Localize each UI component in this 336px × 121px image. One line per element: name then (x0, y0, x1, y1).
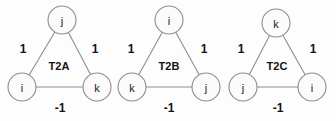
node-label-t2b-right: j (204, 82, 207, 94)
edge-weight-t2a-top-right: 1 (92, 42, 99, 56)
node-label-t2a-right: k (94, 82, 100, 94)
edge-weight-t2c-top-left: 1 (238, 42, 245, 56)
node-label-t2c-left: j (241, 82, 244, 94)
edge-t2a-top-right (68, 32, 90, 74)
edge-weight-t2c-left-right: -1 (273, 101, 284, 115)
node-label-t2a-left: i (21, 82, 23, 94)
edge-weight-t2b-top-left: 1 (128, 42, 135, 56)
node-label-t2b-left: k (129, 82, 135, 94)
node-label-t2c-right: i (311, 82, 313, 94)
graph-canvas: 11-1jikT2A11-1ikjT2B11-1kjiT2C (0, 0, 336, 121)
edge-weight-t2a-top-left: 1 (20, 42, 27, 56)
triangle-name-t2c: T2C (267, 60, 288, 72)
triangle-name-t2a: T2A (49, 60, 70, 72)
edge-weight-t2b-left-right: -1 (164, 101, 175, 115)
node-label-t2c-top: k (273, 18, 279, 30)
node-label-t2a-top: j (60, 15, 63, 27)
edge-weight-t2c-top-right: 1 (310, 42, 317, 56)
node-label-t2b-top: i (168, 15, 170, 27)
triangle-name-t2b: T2B (159, 60, 180, 72)
edge-weight-t2b-top-right: 1 (201, 42, 208, 56)
edge-weight-t2a-left-right: -1 (55, 101, 66, 115)
triad-diagram: 11-1jikT2A11-1ikjT2B11-1kjiT2C (0, 0, 336, 121)
